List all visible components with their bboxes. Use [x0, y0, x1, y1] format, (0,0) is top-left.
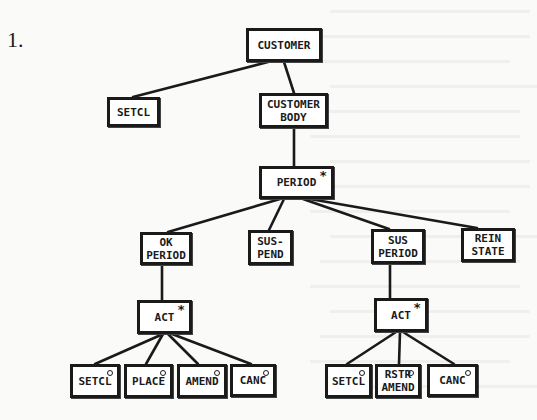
selection-marker-icon — [359, 370, 365, 376]
selection-marker-icon — [263, 370, 269, 376]
iteration-marker-icon: * — [319, 170, 327, 181]
node-rein-state: REIN STATE — [461, 228, 515, 262]
iteration-marker-icon: * — [177, 304, 185, 315]
edge-act-right-to-setcl-r — [347, 332, 396, 364]
node-act-left: ACT* — [137, 300, 192, 334]
node-place-l: PLACE — [124, 364, 173, 398]
node-customer-body: CUSTOMER BODY — [259, 93, 328, 128]
selection-marker-icon — [107, 370, 113, 376]
node-label: SUS PERIOD — [378, 234, 418, 260]
node-label: ACT — [391, 309, 411, 322]
figure-number: 1. — [7, 27, 24, 53]
selection-marker-icon — [408, 370, 414, 376]
node-setcl-l: SETCL — [70, 364, 120, 398]
edge-period-to-sus-pend — [269, 199, 284, 230]
node-canc-r: CANC — [427, 364, 478, 397]
edge-act-right-to-rstr-amend-r — [399, 332, 400, 364]
edge-period-to-ok-period — [168, 199, 280, 232]
selection-marker-icon — [160, 370, 166, 376]
node-customer: CUSTOMER — [246, 28, 322, 62]
node-label: SUS- PEND — [257, 235, 284, 261]
node-setcl-top: SETCL — [107, 97, 160, 127]
node-label: OK PERIOD — [146, 236, 186, 262]
edge-act-right-to-canc-r — [403, 332, 454, 364]
node-label: REIN STATE — [471, 232, 504, 258]
selection-marker-icon — [214, 370, 220, 376]
node-label: SETCL — [117, 106, 150, 119]
tree-diagram: 1. CUSTOMERSETCLCUSTOMER BODYPERIOD*OK P… — [0, 0, 537, 420]
node-label: PLACE — [132, 375, 165, 388]
node-sus-pend: SUS- PEND — [248, 230, 293, 265]
node-label: CUSTOMER — [258, 39, 311, 52]
node-label: CANC — [240, 374, 267, 387]
node-period: PERIOD* — [259, 166, 334, 199]
node-label: ACT — [155, 311, 175, 324]
selection-marker-icon — [465, 370, 471, 376]
node-amend-l: AMEND — [177, 364, 227, 398]
edge-period-to-sus-period — [303, 199, 389, 229]
node-canc-l: CANC — [230, 364, 276, 397]
edge-act-left-to-setcl-l — [95, 334, 163, 364]
node-label: AMEND — [185, 375, 218, 388]
node-label: CUSTOMER BODY — [267, 98, 320, 124]
edge-customer-to-customer-body — [284, 62, 294, 93]
diagram-edges — [0, 0, 537, 420]
node-ok-period: OK PERIOD — [140, 232, 192, 265]
node-label: PERIOD — [277, 176, 317, 189]
edge-period-to-rein-state — [310, 199, 477, 228]
edge-customer-to-setcl-top — [133, 62, 268, 97]
node-setcl-r: SETCL — [325, 364, 372, 398]
iteration-marker-icon: * — [413, 302, 421, 313]
node-label: CANC — [439, 374, 466, 387]
node-sus-period: SUS PERIOD — [371, 229, 425, 264]
node-label: SETCL — [78, 375, 111, 388]
node-label: SETCL — [332, 375, 365, 388]
node-rstr-amend-r: RSTR AMEND — [375, 364, 421, 398]
node-act-right: ACT* — [374, 298, 428, 332]
